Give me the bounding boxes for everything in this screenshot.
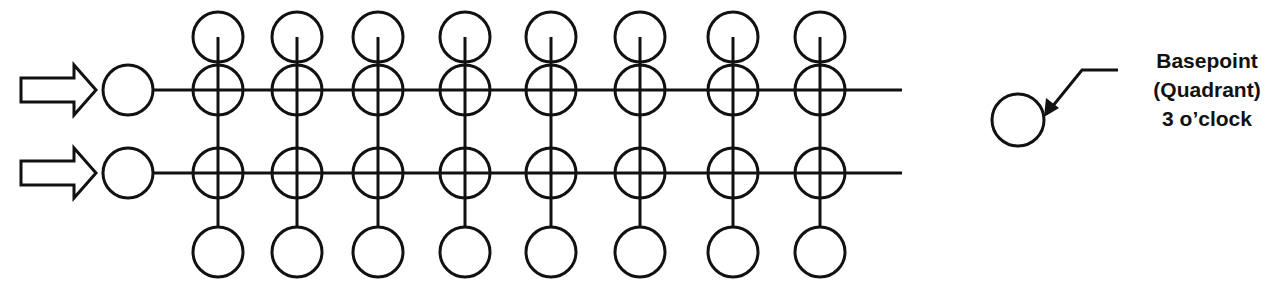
- bottom-node-circle: [708, 227, 758, 277]
- bottom-node-circle: [272, 227, 322, 277]
- start-node-circle: [103, 148, 153, 198]
- callout-line-2: (Quadrant): [1132, 75, 1282, 104]
- callout-line-3: 3 o’clock: [1132, 104, 1282, 133]
- bottom-node-circle: [615, 227, 665, 277]
- callout-line-1: Basepoint: [1132, 46, 1282, 75]
- right-arrow-icon: [21, 148, 96, 198]
- callout-label: Basepoint (Quadrant) 3 o’clock: [1132, 46, 1282, 133]
- start-node-circle: [103, 65, 153, 115]
- basepoint-circle: [992, 94, 1044, 146]
- right-arrow-icon: [21, 65, 96, 115]
- bottom-node-circle: [440, 227, 490, 277]
- bottom-node-circle: [353, 227, 403, 277]
- bottom-node-circle: [526, 227, 576, 277]
- connector-lines: [153, 37, 902, 227]
- bottom-node-circle: [795, 227, 845, 277]
- callout-leader-arrow-icon: [1044, 70, 1118, 117]
- input-arrows: [21, 65, 96, 198]
- grid-diagram: [0, 0, 1288, 307]
- bottom-node-circle: [193, 227, 243, 277]
